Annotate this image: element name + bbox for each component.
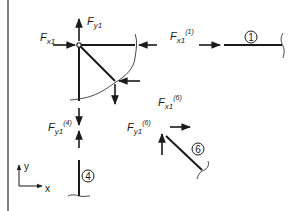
coordinate-axes: y x — [19, 161, 50, 194]
fx1-member1-label: Fx1(1) — [170, 28, 194, 45]
y-axis-label: y — [24, 161, 29, 172]
x-axis-label: x — [45, 183, 50, 194]
fy1-label: Fy1 — [87, 15, 102, 30]
member-1-number: 1 — [248, 32, 254, 43]
member-6-number: 6 — [195, 144, 201, 155]
fy1-member4-label: Fy1(4) — [48, 119, 72, 136]
fy1-member6-label: Fy1(6) — [127, 119, 151, 136]
member-6-break — [197, 161, 209, 179]
joint-diagonal-stub — [79, 45, 115, 81]
joint-free-body — [70, 34, 137, 101]
fx1-label: Fx1 — [40, 31, 55, 46]
member-4-number: 4 — [85, 171, 91, 182]
free-body-diagram: Fx1 Fy1 Fx1(1) 1 Fy1(4) 4 Fx1(6) Fy1(6) … — [0, 0, 297, 211]
fx1-member6-label: Fx1(6) — [158, 94, 182, 111]
pin-node — [77, 43, 81, 47]
